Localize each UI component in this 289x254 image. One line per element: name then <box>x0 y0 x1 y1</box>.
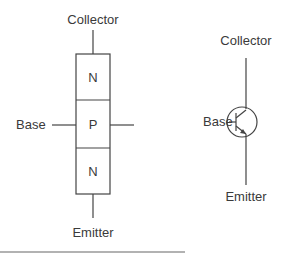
block-emitter-label: Emitter <box>72 225 114 240</box>
layer-p: P <box>89 117 98 132</box>
symbol-emitter-label: Emitter <box>225 189 267 204</box>
symbol-base-label: Base <box>203 114 233 129</box>
collector-diagonal <box>236 110 246 118</box>
layer-n-top: N <box>88 70 97 85</box>
symbol-collector-label: Collector <box>220 33 272 48</box>
layer-n-bottom: N <box>88 164 97 179</box>
block-collector-label: Collector <box>67 12 119 27</box>
npn-transistor-figure: Collector N P N Base Emitter Collector B… <box>0 0 289 254</box>
block-base-label: Base <box>16 117 46 132</box>
npn-schematic-symbol: Collector Base Emitter <box>203 33 272 204</box>
npn-block-diagram: Collector N P N Base Emitter <box>16 12 134 240</box>
